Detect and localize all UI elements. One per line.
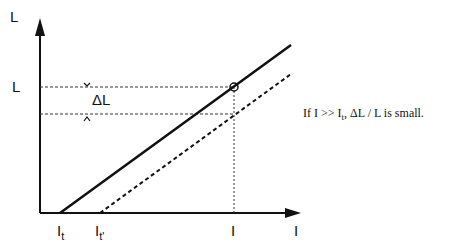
x-axis xyxy=(40,208,301,218)
x-tick-label: I xyxy=(231,222,235,239)
solid-line xyxy=(60,45,291,213)
y-axis-arrow-icon xyxy=(35,18,45,36)
y-axis-label: L xyxy=(10,8,18,25)
it-prime-label: It' xyxy=(95,222,104,242)
delta-label: ΔL xyxy=(92,91,110,108)
y-axis xyxy=(35,18,45,213)
x-axis-arrow-icon xyxy=(285,208,301,218)
annotation-text: If I >> It, ΔL / L is small. xyxy=(303,106,424,122)
delta-bottom-marker-icon xyxy=(84,117,90,121)
dashed-line xyxy=(100,74,291,213)
diagram: L L ΔL It It' I I If I >> It, ΔL / L is … xyxy=(0,0,460,252)
y-tick-label: L xyxy=(12,78,20,95)
x-axis-label: I xyxy=(294,222,298,239)
delta-top-marker-icon xyxy=(84,83,90,86)
it-label: It xyxy=(57,222,64,242)
